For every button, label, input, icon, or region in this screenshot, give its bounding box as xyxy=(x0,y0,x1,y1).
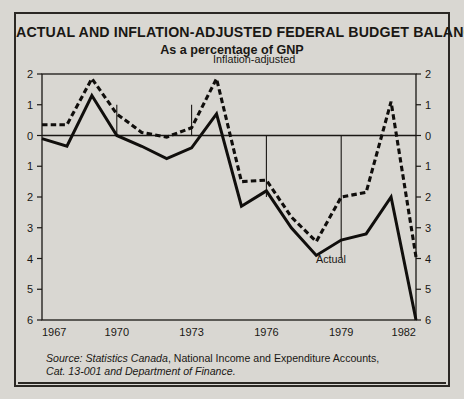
y-axis-tick-label-left: 2 xyxy=(27,191,33,203)
y-axis-tick-label-right: 2 xyxy=(425,68,431,80)
x-axis-tick-label: 1982 xyxy=(392,326,416,338)
y-axis-tick-label-left: 4 xyxy=(27,253,33,265)
y-axis-tick-label-right: 1 xyxy=(425,160,431,172)
y-axis-tick-label-right: 3 xyxy=(425,222,431,234)
figure-frame: ACTUAL AND INFLATION-ADJUSTED FEDERAL BU… xyxy=(14,12,450,387)
y-axis-tick-label-right: 4 xyxy=(425,253,431,265)
source-line1-rest: , National Income and Expenditure Accoun… xyxy=(168,352,379,364)
y-axis-tick-label-left: 5 xyxy=(27,283,33,295)
y-axis-tick-label-left: 6 xyxy=(27,314,33,326)
y-axis-tick-label-left: 3 xyxy=(27,222,33,234)
y-axis-tick-label-right: 6 xyxy=(425,314,431,326)
chart-plot: 2211001122334455661967197019731976197919… xyxy=(16,14,452,389)
y-axis-tick-label-left: 0 xyxy=(27,130,33,142)
series-annotation-actual: Actual xyxy=(316,253,346,265)
y-axis-tick-label-left: 1 xyxy=(27,99,33,111)
y-axis-tick-label-right: 1 xyxy=(425,99,431,111)
footer-divider xyxy=(18,382,446,384)
source-prefix: Source: Statistics Canada xyxy=(46,352,168,364)
x-axis-tick-label: 1976 xyxy=(254,326,278,338)
source-line2: Cat. 13-001 and Department of Finance. xyxy=(46,365,236,377)
source-note: Source: Statistics Canada, National Inco… xyxy=(46,352,436,379)
y-axis-tick-label-right: 5 xyxy=(425,283,431,295)
series-annotation-inflation-adjusted: Inflation-adjusted xyxy=(213,53,295,65)
y-axis-tick-label-right: 2 xyxy=(425,191,431,203)
x-axis-tick-label: 1970 xyxy=(105,326,129,338)
y-axis-tick-label-left: 2 xyxy=(27,68,33,80)
x-axis-tick-label: 1979 xyxy=(329,326,353,338)
y-axis-tick-label-right: 0 xyxy=(425,130,431,142)
x-axis-tick-label: 1967 xyxy=(42,326,66,338)
series-line-actual xyxy=(42,96,416,320)
x-axis-tick-label: 1973 xyxy=(179,326,203,338)
y-axis-tick-label-left: 1 xyxy=(27,160,33,172)
